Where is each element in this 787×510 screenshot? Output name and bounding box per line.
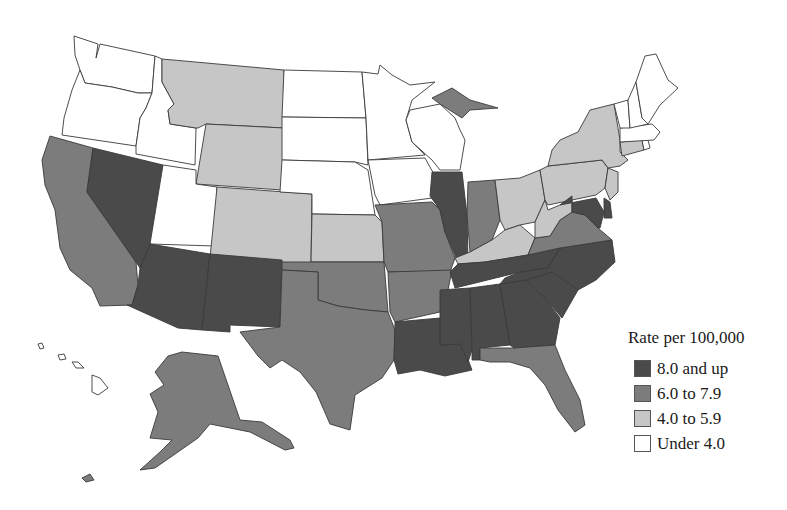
- state-AK: [140, 352, 294, 470]
- legend-swatch: [634, 435, 651, 452]
- state-HI-big: [92, 375, 108, 395]
- state-SD: [282, 117, 368, 165]
- legend-swatch: [634, 385, 651, 402]
- legend-label: 4.0 to 5.9: [657, 409, 721, 429]
- state-KS: [311, 214, 384, 262]
- legend-item-6-to-7-9: 6.0 to 7.9: [634, 381, 745, 406]
- state-IA: [368, 158, 436, 205]
- state-HI-oahu: [58, 354, 66, 360]
- state-CT: [620, 140, 644, 156]
- state-MT: [162, 59, 284, 128]
- state-WY: [196, 124, 284, 190]
- state-FL: [480, 345, 585, 432]
- state-DE: [604, 198, 612, 218]
- state-HI-maui: [72, 362, 84, 368]
- legend-item-under-4: Under 4.0: [634, 431, 745, 456]
- legend: Rate per 100,000 8.0 and up 6.0 to 7.9 4…: [632, 328, 745, 456]
- legend-label: Under 4.0: [657, 434, 725, 454]
- state-NJ: [605, 168, 618, 200]
- legend-item-4-to-5-9: 4.0 to 5.9: [634, 406, 745, 431]
- state-NM: [202, 254, 282, 332]
- state-AK-islands: [82, 474, 94, 482]
- legend-item-8-and-up: 8.0 and up: [634, 356, 745, 381]
- state-PA: [540, 160, 608, 205]
- state-CO: [210, 187, 312, 264]
- legend-label: 8.0 and up: [657, 359, 728, 379]
- legend-swatch: [634, 360, 651, 377]
- state-ME: [636, 54, 678, 124]
- state-HI-kauai: [38, 343, 44, 349]
- legend-label: 6.0 to 7.9: [657, 384, 721, 404]
- legend-swatch: [634, 410, 651, 427]
- state-ND: [282, 70, 366, 118]
- legend-title: Rate per 100,000: [628, 328, 745, 348]
